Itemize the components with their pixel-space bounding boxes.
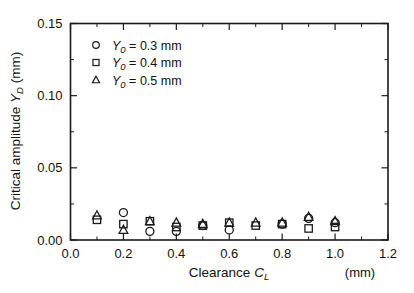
y-tick-label: 0.15 bbox=[37, 16, 62, 31]
x-tick-label: 0.6 bbox=[220, 246, 238, 261]
x-tick-label: 0.8 bbox=[273, 246, 291, 261]
y-tick-label: 0.05 bbox=[37, 160, 62, 175]
figure-container: 0.00.20.40.60.81.01.2 0.000.050.100.15 Y… bbox=[0, 0, 414, 293]
y-tick-label: 0.00 bbox=[37, 233, 62, 248]
x-axis-unit-label: (mm) bbox=[345, 265, 375, 280]
x-axis-label: Clearance CL bbox=[189, 265, 269, 282]
x-tick-label: 1.0 bbox=[326, 246, 344, 261]
x-tick-label: 0.2 bbox=[114, 246, 132, 261]
x-tick-label: 0.0 bbox=[61, 246, 79, 261]
y-tick-label: 0.10 bbox=[37, 88, 62, 103]
x-tick-label: 1.2 bbox=[379, 246, 397, 261]
y-axis-label: Critical amplitude YD (mm) bbox=[8, 52, 25, 210]
x-tick-label: 0.4 bbox=[167, 246, 185, 261]
scatter-plot: 0.00.20.40.60.81.01.2 0.000.050.100.15 Y… bbox=[0, 0, 414, 293]
